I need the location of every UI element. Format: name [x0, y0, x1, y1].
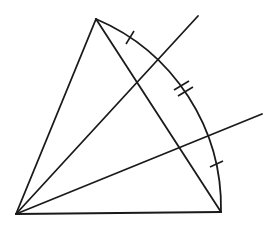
sector-diagram: [0, 0, 276, 226]
ray-upper: [16, 16, 198, 214]
chord-ab: [96, 19, 221, 212]
radius-oa: [16, 19, 96, 214]
ray-lower: [16, 114, 262, 214]
tick-mark-single-top: [126, 31, 134, 44]
radius-ob: [16, 212, 221, 214]
